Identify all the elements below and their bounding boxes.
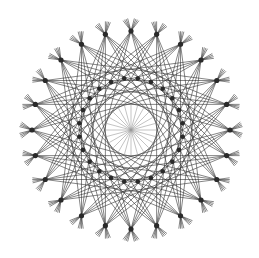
inner-node-dot: [177, 148, 182, 153]
outer-node-dot: [103, 223, 108, 228]
inner-node-dot: [160, 169, 165, 174]
outer-node-dot: [178, 42, 183, 47]
inner-node-dot: [87, 96, 92, 101]
inner-node-dot: [177, 108, 182, 113]
inner-node-dot: [81, 148, 86, 153]
outer-node-dot: [214, 177, 219, 182]
inner-node-dot: [170, 159, 175, 164]
inner-node-dot: [77, 134, 82, 139]
inner-node-dot: [81, 108, 86, 113]
inner-node-dot: [109, 80, 114, 85]
outer-node-dot: [154, 32, 159, 37]
inner-node-dot: [77, 121, 82, 126]
outer-node-dot: [43, 177, 48, 182]
outer-node-dot: [128, 28, 133, 33]
inner-node-dot: [180, 134, 185, 139]
outer-node-dot: [43, 78, 48, 83]
inner-node-dot: [135, 179, 140, 184]
inner-node-dot: [122, 76, 127, 81]
outer-node-dot: [224, 153, 229, 158]
inner-node-dot: [135, 76, 140, 81]
outer-node-dot: [224, 102, 229, 107]
inner-node-dot: [97, 86, 102, 91]
outer-node-dot: [103, 32, 108, 37]
outer-node-dot: [154, 223, 159, 228]
outer-node-dot: [178, 213, 183, 218]
outer-node-dot: [79, 213, 84, 218]
outer-node-dot: [128, 226, 133, 231]
inner-node-dot: [87, 159, 92, 164]
outer-node-dot: [58, 197, 63, 202]
inner-node-dot: [180, 121, 185, 126]
inner-node-dot: [97, 169, 102, 174]
outer-node-dot: [227, 127, 232, 132]
inner-node-dot: [122, 179, 127, 184]
inner-node-dot: [149, 80, 154, 85]
inner-node-dot: [109, 176, 114, 181]
outer-node-dot: [198, 197, 203, 202]
outer-node-dot: [79, 42, 84, 47]
rosette-figure: [0, 0, 259, 258]
outer-node-dot: [33, 153, 38, 158]
inner-node-dot: [160, 86, 165, 91]
inner-node-dot: [149, 176, 154, 181]
outer-node-dot: [58, 57, 63, 62]
outer-node-dot: [198, 57, 203, 62]
inner-node-dot: [170, 96, 175, 101]
center-spokes: [106, 105, 156, 155]
outer-node-dot: [29, 127, 34, 132]
outer-node-dot: [33, 102, 38, 107]
outer-node-dot: [214, 78, 219, 83]
